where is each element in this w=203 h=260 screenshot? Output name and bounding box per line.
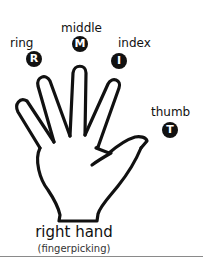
- index-finger-label: index: [118, 37, 151, 49]
- thumb-badge-icon: T: [162, 122, 178, 138]
- middle-finger-badge-icon: M: [72, 36, 88, 52]
- index-finger-badge-icon: I: [111, 53, 127, 69]
- bottom-divider: [0, 256, 203, 257]
- caption-subtitle: (fingerpicking): [0, 243, 148, 254]
- thumb-label: thumb: [151, 106, 190, 118]
- ring-finger-label: ring: [10, 37, 34, 49]
- middle-finger-label: middle: [61, 22, 102, 34]
- ring-finger-badge-icon: R: [26, 51, 42, 67]
- caption-title: right hand: [0, 223, 148, 241]
